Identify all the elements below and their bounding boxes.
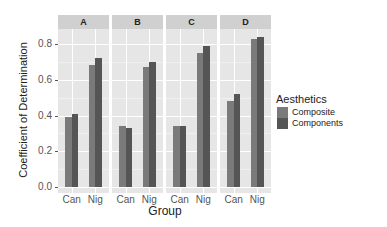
legend-label-composite: Composite <box>292 107 335 117</box>
y-tick-label: 0.0 <box>22 181 52 192</box>
facet-panel-b <box>112 29 163 193</box>
bar-components-can <box>126 128 133 187</box>
facet-panel-a <box>58 29 109 193</box>
x-tick-label: Nig <box>196 194 211 205</box>
gridline-major <box>58 44 109 45</box>
legend-key-composite <box>277 107 288 118</box>
y-tick-label: 0.6 <box>22 74 52 85</box>
gridline-major <box>166 187 217 188</box>
bar-components-nig <box>203 46 210 187</box>
bar-components-can <box>234 94 241 187</box>
gridline-major <box>58 187 109 188</box>
x-tick-label: Nig <box>142 194 157 205</box>
legend-title: Aesthetics <box>276 93 327 105</box>
y-tick-label: 0.8 <box>22 38 52 49</box>
legend-key-components <box>277 118 288 129</box>
legend-label-components: Components <box>292 118 343 128</box>
gridline-major <box>220 187 271 188</box>
x-axis-label: Group <box>148 204 181 218</box>
bar-components-nig <box>95 58 102 187</box>
bar-components-nig <box>149 62 156 187</box>
bar-components-can <box>180 126 187 187</box>
facet-panel-c <box>166 29 217 193</box>
gridline-major <box>112 44 163 45</box>
bar-components-can <box>72 114 79 187</box>
facet-strip-a: A <box>58 15 109 29</box>
y-tick-label: 0.4 <box>22 110 52 121</box>
x-tick-label: Can <box>225 194 243 205</box>
gridline-major <box>112 187 163 188</box>
facet-panel-d <box>220 29 271 193</box>
faceted-bar-chart: Coefficient of Determination Group 0.00.… <box>0 0 387 227</box>
facet-strip-d: D <box>220 15 271 29</box>
x-tick-label: Can <box>171 194 189 205</box>
x-tick-label: Can <box>63 194 81 205</box>
facet-strip-b: B <box>112 15 163 29</box>
x-tick-label: Can <box>117 194 135 205</box>
bar-components-nig <box>257 37 264 187</box>
y-tick-label: 0.2 <box>22 145 52 156</box>
x-tick-label: Nig <box>250 194 265 205</box>
facet-strip-c: C <box>166 15 217 29</box>
x-tick-label: Nig <box>88 194 103 205</box>
